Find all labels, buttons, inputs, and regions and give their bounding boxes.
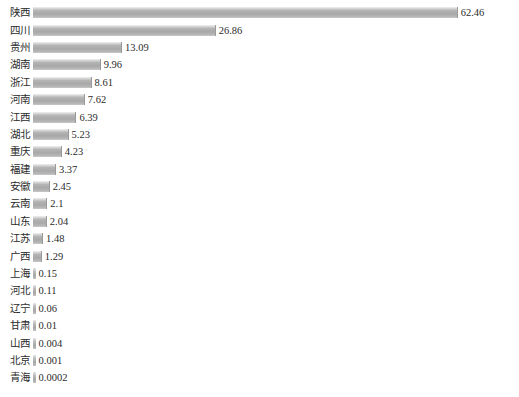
bar-row: 云南2.1 — [0, 195, 519, 212]
category-label: 河北 — [0, 285, 33, 296]
bar[interactable] — [33, 251, 42, 262]
bar-track: 7.62 — [33, 91, 519, 108]
bar-value-label: 6.39 — [76, 112, 97, 123]
bar-row: 山西0.004 — [0, 334, 519, 351]
bar[interactable] — [33, 198, 47, 209]
bar-track: 13.09 — [33, 39, 519, 56]
bar-track: 0.11 — [33, 282, 519, 299]
bar-value-label: 0.06 — [36, 303, 57, 314]
category-label: 甘肃 — [0, 320, 33, 331]
bar-value-label: 0.004 — [36, 338, 63, 349]
bar-row: 北京0.001 — [0, 352, 519, 369]
bar-row: 浙江8.61 — [0, 74, 519, 91]
category-label: 辽宁 — [0, 303, 33, 314]
bar-row: 河北0.11 — [0, 282, 519, 299]
category-label: 广西 — [0, 251, 33, 262]
category-label: 山东 — [0, 216, 33, 227]
bar-value-label: 5.23 — [69, 129, 90, 140]
category-label: 云南 — [0, 198, 33, 209]
bar-value-label: 2.04 — [47, 216, 68, 227]
bar-value-label: 9.96 — [101, 59, 122, 70]
bar-value-label: 2.1 — [47, 198, 63, 209]
bar-track: 26.86 — [33, 21, 519, 38]
bar-value-label: 2.45 — [50, 181, 71, 192]
bar-track: 0.01 — [33, 317, 519, 334]
category-label: 湖南 — [0, 59, 33, 70]
bar-value-label: 26.86 — [216, 25, 243, 36]
bar-value-label: 0.0002 — [36, 372, 68, 383]
category-label: 河南 — [0, 94, 33, 105]
bar-track: 3.37 — [33, 161, 519, 178]
bar-row: 上海0.15 — [0, 265, 519, 282]
bar-track: 0.004 — [33, 334, 519, 351]
bar[interactable] — [33, 59, 101, 70]
bar-track: 4.23 — [33, 143, 519, 160]
category-label: 山西 — [0, 338, 33, 349]
category-label: 北京 — [0, 355, 33, 366]
bar-row: 河南7.62 — [0, 91, 519, 108]
category-label: 贵州 — [0, 42, 33, 53]
category-label: 上海 — [0, 268, 33, 279]
bar-row: 江西6.39 — [0, 108, 519, 125]
bar-track: 1.48 — [33, 230, 519, 247]
bar-track: 6.39 — [33, 108, 519, 125]
category-label: 湖北 — [0, 129, 33, 140]
category-label: 福建 — [0, 164, 33, 175]
bar-track: 2.1 — [33, 195, 519, 212]
bar-track: 0.15 — [33, 265, 519, 282]
bar-value-label: 0.11 — [36, 285, 57, 296]
category-label: 陕西 — [0, 7, 33, 18]
bar-row: 青海0.0002 — [0, 369, 519, 386]
bar[interactable] — [33, 129, 69, 140]
bar-track: 2.04 — [33, 213, 519, 230]
bar-value-label: 13.09 — [122, 42, 149, 53]
bar[interactable] — [33, 42, 122, 53]
bar-track: 9.96 — [33, 56, 519, 73]
category-label: 青海 — [0, 372, 33, 383]
bar[interactable] — [33, 233, 43, 244]
bar[interactable] — [33, 216, 47, 227]
bar[interactable] — [33, 77, 92, 88]
bar-track: 62.46 — [33, 4, 519, 21]
bar-track: 5.23 — [33, 126, 519, 143]
bar-row: 山东2.04 — [0, 213, 519, 230]
bar[interactable] — [33, 94, 85, 105]
bar-row: 福建3.37 — [0, 161, 519, 178]
bar-value-label: 4.23 — [62, 146, 83, 157]
bar-track: 8.61 — [33, 74, 519, 91]
bar-value-label: 0.01 — [36, 320, 57, 331]
bar[interactable] — [33, 164, 56, 175]
category-label: 重庆 — [0, 146, 33, 157]
bar-track: 1.29 — [33, 247, 519, 264]
bar-value-label: 8.61 — [92, 77, 113, 88]
bar-value-label: 7.62 — [85, 94, 106, 105]
bar-row: 陕西62.46 — [0, 4, 519, 21]
bar[interactable] — [33, 25, 216, 36]
bar-value-label: 62.46 — [458, 7, 485, 18]
bar[interactable] — [33, 146, 62, 157]
bar-value-label: 0.15 — [36, 268, 57, 279]
bar-value-label: 3.37 — [56, 164, 77, 175]
bar-track: 0.0002 — [33, 369, 519, 386]
bar-row: 四川26.86 — [0, 21, 519, 38]
category-label: 四川 — [0, 25, 33, 36]
category-label: 浙江 — [0, 77, 33, 88]
bar-rows-container: 陕西62.46四川26.86贵州13.09湖南9.96浙江8.61河南7.62江… — [0, 4, 519, 387]
bar-row: 贵州13.09 — [0, 39, 519, 56]
bar-row: 广西1.29 — [0, 247, 519, 264]
bar-row: 甘肃0.01 — [0, 317, 519, 334]
bar-track: 0.001 — [33, 352, 519, 369]
bar-row: 辽宁0.06 — [0, 300, 519, 317]
bar-row: 重庆4.23 — [0, 143, 519, 160]
bar[interactable] — [33, 7, 458, 18]
bar-track: 2.45 — [33, 178, 519, 195]
bar[interactable] — [33, 181, 50, 192]
bar-row: 安徽2.45 — [0, 178, 519, 195]
bar-row: 湖北5.23 — [0, 126, 519, 143]
category-label: 江西 — [0, 112, 33, 123]
bar-chart: 陕西62.46四川26.86贵州13.09湖南9.96浙江8.61河南7.62江… — [0, 0, 519, 397]
bar-value-label: 1.29 — [42, 251, 63, 262]
bar-row: 江苏1.48 — [0, 230, 519, 247]
bar-track: 0.06 — [33, 300, 519, 317]
bar[interactable] — [33, 112, 76, 123]
